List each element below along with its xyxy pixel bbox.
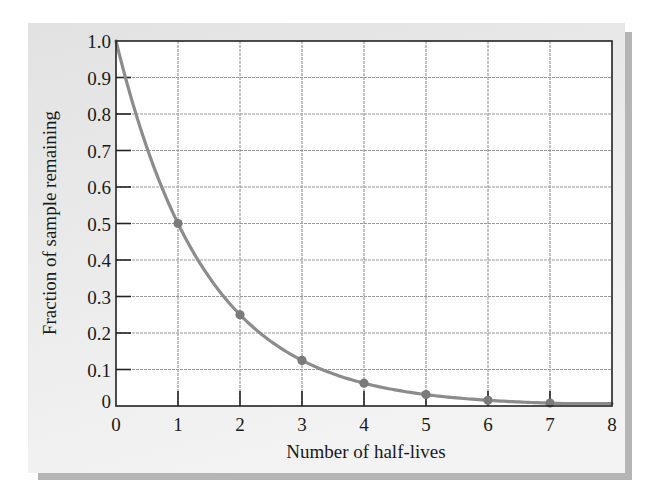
x-tick-label: 1 (173, 414, 183, 435)
y-tick-label: 0 (102, 391, 112, 412)
y-tick-label: 0.8 (87, 104, 111, 125)
y-tick-label: 0.2 (87, 323, 111, 344)
y-tick-label: 0.5 (87, 214, 111, 235)
x-tick-label: 2 (235, 414, 245, 435)
x-tick-label: 7 (545, 414, 555, 435)
y-tick-label: 0.9 (87, 68, 111, 89)
x-tick-label: 4 (359, 414, 369, 435)
half-life-decay-chart: 00.10.20.30.40.50.60.70.80.91.0 01234567… (0, 0, 653, 496)
x-tick-label: 0 (111, 414, 121, 435)
x-axis-title: Number of half-lives (286, 441, 445, 462)
data-point (359, 379, 368, 388)
data-point (297, 356, 306, 365)
x-tick-label: 6 (483, 414, 493, 435)
data-point (173, 219, 182, 228)
y-tick-label: 0.1 (87, 360, 111, 381)
x-tick-label: 8 (607, 414, 617, 435)
y-tick-label: 0.3 (87, 287, 111, 308)
y-axis-title: Fraction of sample remaining (39, 110, 60, 335)
data-point (235, 310, 244, 319)
y-tick-label: 1.0 (87, 31, 111, 52)
y-tick-label: 0.4 (87, 250, 111, 271)
data-point (421, 390, 430, 399)
data-point (483, 396, 492, 405)
panel-shadow-right (625, 32, 632, 480)
x-tick-label: 3 (297, 414, 307, 435)
y-tick-label: 0.7 (87, 141, 111, 162)
y-tick-label: 0.6 (87, 177, 111, 198)
x-tick-label: 5 (421, 414, 431, 435)
panel-shadow-bottom (38, 473, 632, 480)
